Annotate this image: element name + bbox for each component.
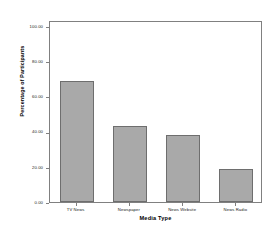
y-axis-tick-label: 100.00: [30, 24, 43, 29]
x-axis-title: Media Type: [49, 215, 262, 221]
bar: [60, 81, 94, 202]
y-axis-tick-label: 40.00: [32, 129, 43, 134]
x-axis-tick-mark: [129, 203, 130, 206]
bar-chart-figure: Percentage of Participants 0.0020.0040.0…: [0, 0, 278, 235]
x-axis-tick-label: News Website: [156, 207, 209, 212]
x-axis-tick-label: News Radio: [209, 207, 262, 212]
plot-area: [49, 21, 262, 203]
x-axis-tick-label: TV News: [49, 207, 102, 212]
x-axis-tick-mark: [76, 203, 77, 206]
bar: [166, 135, 200, 202]
x-axis-tick-mark: [235, 203, 236, 206]
y-axis-tick-label: 20.00: [32, 165, 43, 170]
bar: [219, 169, 253, 202]
bar: [113, 126, 147, 202]
x-axis-tick-label: Newspaper: [102, 207, 155, 212]
y-axis-tick-label: 0.00: [34, 200, 43, 205]
y-axis-tick-label: 80.00: [32, 59, 43, 64]
x-axis-tick-mark: [182, 203, 183, 206]
y-axis-title: Percentage of Participants: [19, 16, 25, 146]
y-axis-tick-label: 60.00: [32, 94, 43, 99]
y-axis-tick-mark: [46, 203, 49, 204]
